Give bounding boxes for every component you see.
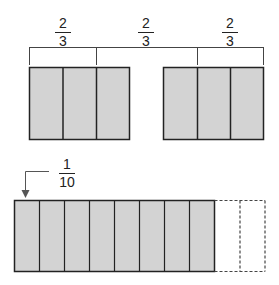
fraction-diagram (0, 0, 279, 285)
bracket (29, 47, 264, 65)
top-left-rectangle (30, 68, 130, 140)
dashed-empty-parts (215, 201, 266, 272)
arrow-icon (22, 172, 50, 199)
top-right-rectangle (164, 68, 264, 140)
bottom-rectangle (15, 201, 266, 272)
